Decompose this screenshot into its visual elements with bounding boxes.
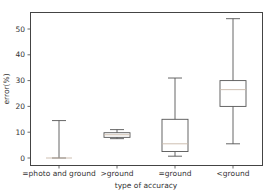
y-tick-label: 10 <box>15 128 25 137</box>
x-axis-ticks: =photo and ground>ground=ground<ground <box>22 166 249 179</box>
y-tick-label: 20 <box>15 102 25 111</box>
y-tick-label: 0 <box>20 154 25 163</box>
y-axis-ticks: 01020304050 <box>15 25 30 163</box>
y-tick-label: 50 <box>15 25 25 34</box>
y-axis-label: error(%) <box>2 73 11 104</box>
plot-area <box>31 13 263 166</box>
y-tick-label: 30 <box>15 76 25 85</box>
y-tick-label: 40 <box>15 50 25 59</box>
x-axis-label: type of accuracy <box>115 181 178 190</box>
x-tick-label: =ground <box>159 169 192 178</box>
x-tick-label: =photo and ground <box>22 169 96 178</box>
x-tick-label: <ground <box>217 169 250 178</box>
x-tick-label: >ground <box>101 169 134 178</box>
boxplot-chart: 01020304050 =photo and ground>ground=gro… <box>0 0 270 194</box>
